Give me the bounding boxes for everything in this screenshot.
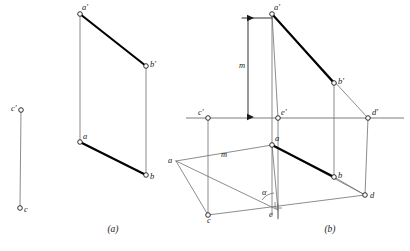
segment-a-prime-b-prime (272, 14, 334, 83)
label-m-vertical: m (239, 60, 245, 70)
line-a-mid-e (272, 145, 278, 210)
figure-a-group: a'b'abc'c (11, 2, 156, 214)
point-a (78, 140, 83, 145)
right-angle-marker (275, 202, 282, 208)
segment-a-b (80, 142, 146, 175)
line-a-prime-e-prime (272, 14, 278, 118)
label-m-horizontal: m (221, 149, 227, 159)
point-d (363, 193, 368, 198)
point-a-prime (78, 12, 83, 17)
label-c-prime: c' (198, 107, 204, 117)
point-b-prime (332, 81, 337, 86)
caption-figure-a: (a) (107, 224, 118, 235)
caption-figure-b: (b) (324, 224, 335, 235)
line-c-d (208, 195, 365, 215)
label-e-prime: e' (281, 107, 287, 117)
figure-b-group: a'b'c'e'd'aabcdemmα (168, 2, 404, 225)
point-a (270, 143, 275, 148)
point-c-prime (19, 108, 24, 113)
label-alpha: α (262, 187, 267, 197)
segment-a-b (272, 145, 334, 177)
point-b (144, 173, 149, 178)
projector-d (365, 118, 368, 195)
point-c-prime (206, 116, 211, 121)
point-d-prime (366, 116, 371, 121)
label-c: c (24, 204, 28, 214)
label-a: a (83, 131, 87, 141)
label-b-prime: b' (338, 76, 344, 86)
label-c: c (207, 215, 211, 225)
line-a-left-e (176, 161, 278, 210)
point-c (18, 206, 23, 211)
point-b-prime (144, 64, 149, 69)
point-e-prime (276, 116, 281, 121)
label-a-prime: a' (274, 2, 280, 12)
point-a-prime (270, 12, 275, 17)
label-b-prime: b' (150, 59, 156, 69)
projection-diagram-svg: a'b'abc'c a'b'c'e'd'aabcdemmα (a) (b) (0, 0, 410, 251)
label-d-prime: d' (372, 107, 378, 117)
technical-drawing-figure: a'b'abc'c a'b'c'e'd'aabcdemmα (a) (b) (0, 0, 410, 251)
label-a-left: a (168, 155, 172, 165)
label-a-prime: a' (82, 2, 88, 12)
label-e: e (269, 209, 273, 219)
segment-a-prime-b-prime (80, 14, 146, 66)
segment-c-prime-c (20, 110, 21, 208)
label-b: b (150, 171, 154, 181)
label-b: b (338, 170, 342, 180)
label-a: a (275, 133, 279, 143)
point-b (332, 175, 337, 180)
label-d: d (370, 190, 375, 200)
label-c-prime: c' (11, 103, 17, 113)
